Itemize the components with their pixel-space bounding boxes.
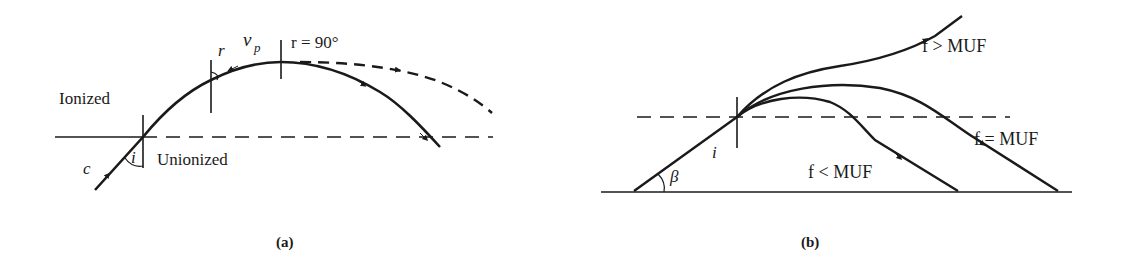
label-beta: β — [669, 167, 679, 186]
label-f-greater-muf: f > MUF — [922, 36, 986, 56]
label-r90: r = 90° — [291, 33, 339, 52]
label-i: i — [131, 148, 136, 167]
panel-a: Ionized Unionized c i r v p r = 90° (a) — [55, 29, 493, 251]
caption-a: (a) — [276, 234, 294, 251]
arrow-bottom-icon — [420, 133, 426, 139]
label-f-equal-muf: f = MUF — [974, 129, 1038, 149]
caption-b: (b) — [801, 234, 819, 251]
incident-ray — [634, 117, 737, 191]
label-vp: v — [243, 29, 252, 50]
label-r: r — [218, 41, 225, 60]
label-f-less-muf: f < MUF — [808, 162, 872, 182]
ray-path — [95, 62, 440, 190]
label-i: i — [712, 143, 717, 162]
diagram-canvas: Ionized Unionized c i r v p r = 90° (a) … — [0, 0, 1147, 271]
label-ionized: Ionized — [59, 89, 110, 108]
angle-beta-arc — [658, 174, 664, 192]
label-c: c — [83, 159, 91, 178]
label-vp-sub: p — [253, 40, 261, 55]
label-unionized: Unionized — [157, 150, 228, 169]
panel-b: i β f > MUF f = MUF f < MUF (b) — [601, 16, 1072, 251]
